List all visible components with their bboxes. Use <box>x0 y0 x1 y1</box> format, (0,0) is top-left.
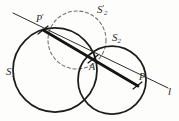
geometry-figure: S1 S2 S'2 P' A P l <box>0 0 179 121</box>
label-point-p-prime: P' <box>36 14 44 24</box>
label-line-l: l <box>168 86 171 97</box>
label-circle-s2-prime: S'2 <box>97 4 108 17</box>
chord-p-prime-a-p <box>43 30 138 86</box>
circle-s2-prime <box>48 11 106 69</box>
label-circle-s2: S2 <box>112 32 121 44</box>
label-point-a: A <box>89 62 95 72</box>
label-point-p: P <box>139 72 145 82</box>
label-circle-s1: S1 <box>6 66 15 78</box>
